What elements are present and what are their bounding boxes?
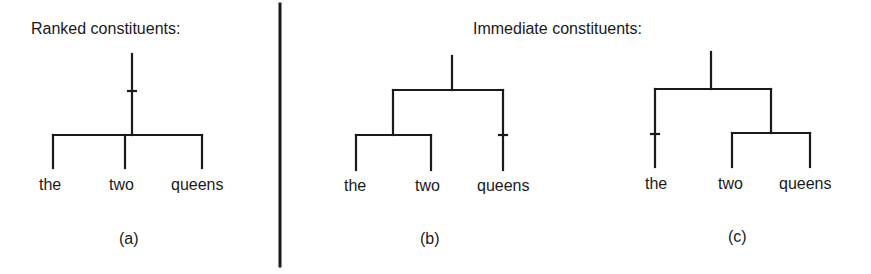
caption-c: (c) [728,228,747,246]
tree-b [356,56,507,170]
caption-b: (b) [420,230,440,248]
word-queens-c: queens [779,175,832,193]
caption-a: (a) [119,230,139,248]
word-two-b: two [415,177,440,195]
tree-a [53,54,202,168]
word-the-a: the [39,176,61,194]
word-queens-a: queens [171,176,224,194]
tree-c [651,52,810,167]
word-two-c: two [718,175,743,193]
immediate-constituents-title: Immediate constituents: [473,20,642,38]
word-queens-b: queens [477,177,530,195]
word-the-b: the [344,177,366,195]
ranked-constituents-title: Ranked constituents: [31,20,180,38]
word-the-c: the [645,175,667,193]
word-two-a: two [109,176,134,194]
